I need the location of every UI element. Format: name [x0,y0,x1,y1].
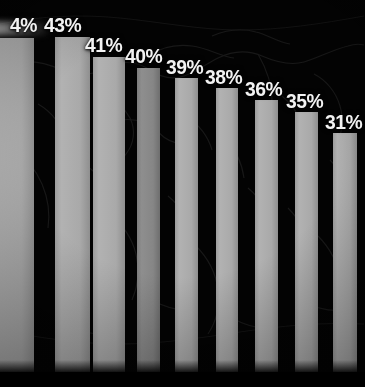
bar [333,133,357,372]
bar [0,38,34,372]
bar-chart: 4%43%41%40%39%38%36%35%31% [0,0,365,387]
bar [255,100,278,372]
bar-value-label: 35% [286,90,323,111]
bar [93,57,125,372]
bar-value-label: 36% [245,78,282,99]
bar-value-label: 40% [125,45,162,66]
bar-value-label: 39% [166,56,203,77]
bar [55,37,90,372]
bar-value-label: 41% [85,34,122,55]
bar [137,68,160,372]
bar [295,112,318,372]
bar-value-label: 43% [44,14,81,35]
bar [175,78,198,372]
bar-value-label: 31% [325,111,362,132]
chart-baseline [0,372,365,387]
bar-value-label: 38% [205,66,242,87]
bar [216,88,238,372]
bar-value-label: 4% [10,14,37,35]
